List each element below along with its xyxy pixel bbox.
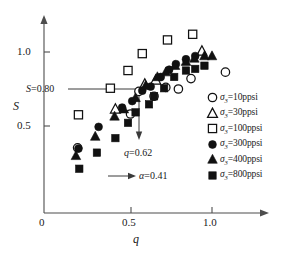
data-point [182,67,189,74]
data-point [192,65,199,72]
data-point [95,123,103,131]
y-tick-label-1.0: 1.0 [17,46,31,57]
circle-open-icon [205,91,220,104]
data-point [132,109,139,116]
data-point [201,62,208,69]
alpha-arrow [108,173,136,179]
data-point [93,149,100,156]
data-point [150,93,157,100]
legend-label: σ3=800ppsi [220,169,262,181]
data-point [90,131,100,140]
data-point [76,165,83,172]
q-arrowhead [136,132,142,141]
data-point [187,74,195,82]
q-threshold-value: =0.62 [129,147,152,158]
legend-item-sigma3_300ppsi[interactable]: σ3=300ppsi [205,137,285,153]
legend-label: σ3=10ppsi [220,92,258,104]
data-point [112,134,119,141]
legend-item-sigma3_400ppsi[interactable]: σ3=400ppsi [205,152,285,168]
y-axis [40,15,50,213]
circle-filled-icon [205,138,220,151]
legend-label: σ3=30ppsi [220,107,258,119]
legend-label: σ3=400ppsi [220,154,262,166]
alpha-value: =0.41 [144,170,167,181]
x-axis-arrowhead [260,209,269,216]
square-filled-icon [205,169,220,182]
alpha-annotation: α=0.41 [139,171,167,181]
x-tick-label-0.5: 0.5 [122,217,136,228]
legend-label: σ3=100ppsi [220,123,262,135]
legend-label: σ3=300ppsi [220,138,262,150]
y-axis-title: S [13,100,19,112]
x-tick-label-1.0: 1.0 [203,217,217,228]
data-point [174,85,182,93]
data-point [160,85,167,92]
data-point [124,66,132,74]
chart-legend: σ3=10ppsiσ3=30ppsiσ3=100ppsiσ3=300ppsiσ3… [205,90,285,183]
y-tick-label-0.5: 0.5 [17,120,31,131]
triangle-open-icon [205,107,220,120]
data-point [124,119,131,126]
legend-item-sigma3_800ppsi[interactable]: σ3=800ppsi [205,168,285,184]
s-threshold-annotation: S=0.80 [26,84,54,94]
x-tick-label-0: 0 [39,217,45,228]
data-point [145,101,152,108]
series-sigma3_100ppsi [74,30,196,119]
data-point [207,51,217,60]
data-point [106,84,114,92]
x-axis [44,207,269,217]
q-threshold-annotation: q=0.62 [124,148,152,158]
data-point [171,73,178,80]
data-point [189,30,197,38]
data-point [163,36,171,44]
legend-item-sigma3_30ppsi[interactable]: σ3=30ppsi [205,106,285,122]
legend-item-sigma3_100ppsi[interactable]: σ3=100ppsi [205,121,285,137]
data-point [74,111,82,119]
data-point [138,50,146,58]
x-axis-title: q [133,233,139,245]
data-point [221,68,229,76]
alpha-arrowhead [128,173,136,179]
y-axis-arrowhead [40,15,47,24]
scatter-chart-figure: 0 0.5 1.0 0.5 1.0 q S S=0.80 q=0.62 α=0.… [0,0,286,253]
s-threshold-value: =0.80 [31,83,54,94]
square-open-icon [205,122,220,135]
legend-item-sigma3_10ppsi[interactable]: σ3=10ppsi [205,90,285,106]
triangle-filled-icon [205,153,220,166]
